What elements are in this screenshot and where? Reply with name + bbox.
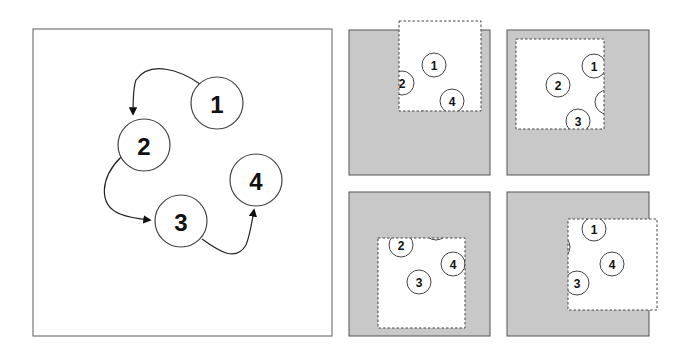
- view-bottom-left: 2143: [349, 192, 490, 336]
- mini-node-label: 4: [609, 258, 616, 272]
- view-bottom-right: 1243: [507, 192, 657, 336]
- mini-node-label: 1: [591, 60, 598, 74]
- mini-node-label: 2: [399, 77, 406, 91]
- node-1: 1: [191, 77, 243, 129]
- view-top-left: 1243: [349, 21, 490, 175]
- view-top-right: 1243: [507, 30, 649, 175]
- mini-node-label: 3: [574, 277, 581, 291]
- node-label: 4: [249, 168, 263, 195]
- mini-node-4: 4: [440, 89, 464, 113]
- mini-node-label: 2: [398, 239, 405, 253]
- mini-node-label: 1: [431, 59, 438, 73]
- main-frame: [33, 29, 332, 336]
- mini-node-1: 1: [582, 217, 606, 241]
- mini-node-4: 4: [441, 252, 465, 276]
- node-label: 2: [137, 133, 150, 160]
- node-label: 1: [210, 91, 223, 118]
- mini-node-label: 3: [416, 276, 423, 290]
- main-diagram: 1234: [33, 29, 332, 336]
- mini-node-2: 2: [546, 73, 570, 97]
- mini-node-4: 4: [600, 252, 624, 276]
- node-3: 3: [155, 195, 207, 247]
- mini-node-1: 1: [582, 54, 606, 78]
- node-label: 3: [174, 209, 187, 236]
- mini-node-label: 3: [575, 115, 582, 129]
- node-2: 2: [118, 119, 170, 171]
- figure-canvas: 1234 1243124321431243: [0, 0, 684, 356]
- mini-node-label: 4: [450, 258, 457, 272]
- mini-node-3: 3: [565, 271, 589, 295]
- mini-node-label: 2: [555, 79, 562, 93]
- mini-node-3: 3: [407, 270, 431, 294]
- mini-node-label: 4: [449, 95, 456, 109]
- mini-node-1: 1: [422, 53, 446, 77]
- node-4: 4: [230, 154, 282, 206]
- view-panels: 1243124321431243: [349, 21, 657, 336]
- mini-node-label: 1: [591, 223, 598, 237]
